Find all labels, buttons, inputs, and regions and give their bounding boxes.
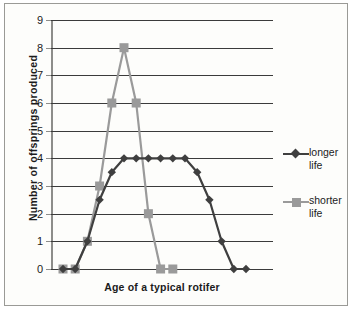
- series-longer-life: [51, 20, 273, 269]
- series-line: [63, 158, 246, 269]
- y-axis-tick-label: 0: [21, 264, 43, 274]
- y-axis-tick-label: 4: [21, 153, 43, 163]
- diamond-marker: [95, 196, 103, 204]
- plot-area: [51, 20, 273, 269]
- y-axis-tick-label: 9: [21, 15, 43, 25]
- y-axis-tick-label: 5: [21, 126, 43, 136]
- y-axis-tick-label: 7: [21, 70, 43, 80]
- y-axis-tick-label: 2: [21, 209, 43, 219]
- chart-frame: Number of offsprings produced 0123456789…: [4, 3, 348, 306]
- diamond-marker: [144, 154, 152, 162]
- diamond-marker: [230, 265, 238, 273]
- diamond-icon: [283, 147, 309, 160]
- y-axis-tick-label: 6: [21, 98, 43, 108]
- diamond-marker: [205, 196, 213, 204]
- x-axis-title: Age of a typical rotifer: [51, 281, 273, 293]
- square-icon: [283, 195, 309, 208]
- legend-item-longer-life[interactable]: longer life: [283, 146, 353, 172]
- diamond-marker: [242, 265, 250, 273]
- diamond-marker: [156, 154, 164, 162]
- y-axis-tick-label: 1: [21, 236, 43, 246]
- legend-label-longer-life: longer life: [309, 146, 353, 172]
- legend-item-shorter-life[interactable]: shorter life: [283, 194, 353, 220]
- diamond-marker: [169, 154, 177, 162]
- y-axis-tick: [46, 269, 51, 270]
- legend-label-shorter-life: shorter life: [309, 194, 353, 220]
- chart-legend: longer life shorter life: [283, 146, 353, 242]
- diamond-marker: [83, 237, 91, 245]
- y-axis-title: Number of offsprings produced: [27, 18, 39, 258]
- diamond-marker: [132, 154, 140, 162]
- y-axis-tick-label: 3: [21, 181, 43, 191]
- y-axis-tick-label: 8: [21, 43, 43, 53]
- diamond-marker: [217, 237, 225, 245]
